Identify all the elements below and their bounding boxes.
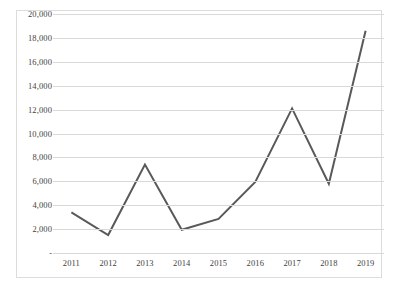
y-axis-tick-label: 4,000 xyxy=(32,200,52,210)
y-axis-tick-label: 12,000 xyxy=(28,105,52,115)
y-axis-tick-label: 18,000 xyxy=(28,33,52,43)
x-axis-tick-label: 2011 xyxy=(53,258,90,274)
gridline xyxy=(53,253,384,254)
x-axis-tick-label: 2012 xyxy=(90,258,127,274)
y-axis-tick-label: 2,000 xyxy=(32,224,52,234)
y-axis-tick-label: 8,000 xyxy=(32,152,52,162)
x-axis-tick-label: 2015 xyxy=(200,258,237,274)
x-axis-tick-label: 2017 xyxy=(274,258,311,274)
gridline xyxy=(53,14,384,15)
gridline xyxy=(53,229,384,230)
y-axis-tick-label: 16,000 xyxy=(28,57,52,67)
y-axis-tick-label: 14,000 xyxy=(28,81,52,91)
gridline xyxy=(53,205,384,206)
line-chart-figure: -2,0004,0006,0008,00010,00012,00014,0001… xyxy=(0,0,395,292)
gridline xyxy=(53,157,384,158)
gridline xyxy=(53,62,384,63)
x-axis: 201120122013201420152016201720182019 xyxy=(53,258,384,274)
y-axis-tick-label: - xyxy=(49,248,52,258)
x-axis-tick-label: 2013 xyxy=(127,258,164,274)
plot-area xyxy=(53,14,384,253)
x-axis-tick-label: 2016 xyxy=(237,258,274,274)
x-axis-tick-label: 2019 xyxy=(347,258,384,274)
gridline xyxy=(53,181,384,182)
y-axis-tick-label: 20,000 xyxy=(28,9,52,19)
gridline xyxy=(53,38,384,39)
x-axis-tick-label: 2014 xyxy=(163,258,200,274)
x-axis-tick-label: 2018 xyxy=(310,258,347,274)
y-axis: -2,0004,0006,0008,00010,00012,00014,0001… xyxy=(16,14,52,253)
gridline xyxy=(53,134,384,135)
gridline xyxy=(53,86,384,87)
y-axis-tick-label: 6,000 xyxy=(32,176,52,186)
gridline xyxy=(53,110,384,111)
y-axis-tick-label: 10,000 xyxy=(28,129,52,139)
